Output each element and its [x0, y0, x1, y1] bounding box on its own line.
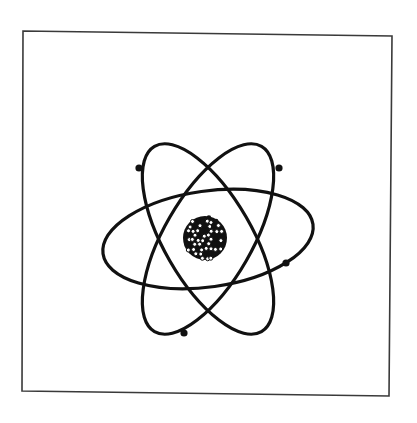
nucleon [193, 233, 197, 237]
nucleon [209, 247, 213, 251]
nucleon [184, 232, 189, 237]
nucleon [186, 248, 190, 252]
nucleon [187, 229, 191, 233]
nucleon [200, 248, 204, 252]
nucleon [203, 224, 208, 229]
nucleon [196, 229, 200, 233]
nucleus [183, 215, 227, 261]
nucleon [219, 247, 223, 251]
nucleon [209, 229, 213, 233]
nucleon [202, 234, 206, 238]
nucleon [206, 233, 210, 237]
electron-2 [275, 164, 282, 171]
nucleon [190, 237, 194, 241]
nucleon [212, 242, 217, 247]
nucleon [200, 228, 205, 233]
electron-1 [135, 164, 142, 171]
nucleon [220, 229, 224, 233]
nucleon [200, 256, 204, 260]
nucleon [188, 242, 193, 247]
nucleon [191, 220, 195, 224]
picture-frame [22, 31, 392, 396]
nucleon [212, 252, 217, 257]
atom-diagram [0, 0, 417, 423]
nucleon [208, 251, 213, 256]
nucleon [211, 223, 216, 228]
nucleon [195, 247, 200, 252]
nucleon [221, 234, 226, 239]
nucleon [199, 252, 203, 256]
nucleon [213, 247, 217, 251]
nucleon [214, 219, 219, 224]
nucleon [198, 224, 202, 228]
nucleon [213, 237, 218, 242]
nucleon [216, 242, 221, 247]
nucleon [216, 224, 220, 228]
nucleon [207, 242, 211, 246]
nucleon [209, 237, 213, 241]
nucleon [192, 248, 196, 252]
nucleon [209, 256, 213, 260]
electron-3 [282, 259, 289, 266]
nucleon [194, 252, 198, 256]
nucleon [198, 242, 202, 246]
electron-4 [180, 329, 187, 336]
nucleon [215, 230, 219, 234]
nucleon [221, 242, 226, 247]
nucleon [184, 242, 189, 247]
nucleon [193, 242, 197, 246]
nucleon [188, 233, 193, 238]
nucleon [204, 246, 208, 250]
